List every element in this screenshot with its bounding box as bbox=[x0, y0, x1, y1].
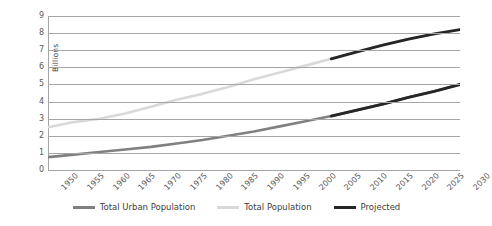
x-tick-label-2015: 2015 bbox=[395, 172, 415, 192]
legend-label: Total Urban Population bbox=[100, 203, 196, 212]
y-tick-label-8: 8 bbox=[26, 29, 44, 37]
x-tick-label-1965: 1965 bbox=[137, 172, 157, 192]
legend-label: Projected bbox=[361, 203, 401, 212]
gridline-8 bbox=[48, 33, 460, 34]
x-tick-label-2010: 2010 bbox=[369, 172, 389, 192]
plot-area bbox=[48, 16, 460, 170]
x-tick-label-1995: 1995 bbox=[292, 172, 312, 192]
legend-label: Total Population bbox=[244, 203, 311, 212]
gridline-9 bbox=[48, 16, 460, 17]
legend-swatch-icon bbox=[73, 206, 95, 209]
y-tick-label-3: 3 bbox=[26, 115, 44, 123]
x-tick-label-1960: 1960 bbox=[111, 172, 131, 192]
x-tick-label-2005: 2005 bbox=[343, 172, 363, 192]
chart-legend: Total Urban PopulationTotal PopulationPr… bbox=[0, 203, 473, 212]
x-tick-label-1985: 1985 bbox=[240, 172, 260, 192]
x-tick-label-2020: 2020 bbox=[420, 172, 440, 192]
y-tick-label-6: 6 bbox=[26, 63, 44, 71]
gridline-3 bbox=[48, 119, 460, 120]
gridline-2 bbox=[48, 136, 460, 137]
gridline-5 bbox=[48, 84, 460, 85]
x-tick-label-1955: 1955 bbox=[86, 172, 106, 192]
x-tick-label-1990: 1990 bbox=[266, 172, 286, 192]
legend-item-total-urban-population[interactable]: Total Urban Population bbox=[73, 203, 196, 212]
y-tick-label-5: 5 bbox=[26, 80, 44, 88]
y-tick-label-7: 7 bbox=[26, 46, 44, 54]
legend-item-total-population[interactable]: Total Population bbox=[217, 203, 311, 212]
projected-line-projected-total-urban-population bbox=[331, 84, 460, 116]
x-tick-label-2025: 2025 bbox=[446, 172, 466, 192]
gridline-1 bbox=[48, 153, 460, 154]
x-tick-label-2000: 2000 bbox=[317, 172, 337, 192]
gridline-7 bbox=[48, 50, 460, 51]
legend-swatch-icon bbox=[334, 206, 356, 209]
y-tick-label-4: 4 bbox=[26, 98, 44, 106]
x-tick-label-1980: 1980 bbox=[214, 172, 234, 192]
legend-item-projected[interactable]: Projected bbox=[334, 203, 401, 212]
series-line-total-population bbox=[48, 30, 460, 128]
y-tick-label-0: 0 bbox=[26, 166, 44, 174]
y-tick-label-9: 9 bbox=[26, 12, 44, 20]
gridline-4 bbox=[48, 102, 460, 103]
series-layer bbox=[48, 16, 460, 170]
gridline-6 bbox=[48, 67, 460, 68]
x-tick-label-1975: 1975 bbox=[189, 172, 209, 192]
y-axis-tick-labels: 0123456789 bbox=[24, 16, 44, 170]
y-tick-label-1: 1 bbox=[26, 149, 44, 157]
y-tick-label-2: 2 bbox=[26, 132, 44, 140]
x-tick-label-1950: 1950 bbox=[60, 172, 80, 192]
x-tick-label-1970: 1970 bbox=[163, 172, 183, 192]
legend-swatch-icon bbox=[217, 206, 239, 209]
series-line-total-urban-population bbox=[48, 84, 460, 157]
x-tick-label-2030: 2030 bbox=[472, 172, 492, 192]
